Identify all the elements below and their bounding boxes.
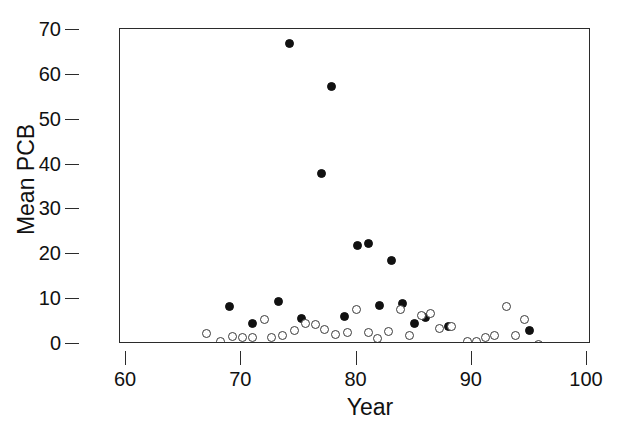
data-point-open [301,319,310,328]
x-axis-tick [240,351,241,365]
data-point-filled [387,256,396,265]
data-point-open [352,305,361,314]
y-axis-tick [65,119,79,120]
data-point-filled [364,239,373,248]
x-axis-tick-label: 60 [114,369,136,389]
data-point-open [238,333,247,342]
data-point-open [311,320,320,329]
data-point-open [435,324,444,333]
data-point-open [278,331,287,340]
data-point-open [320,325,329,334]
y-axis-tick-label: 30 [39,198,61,218]
x-axis-tick [586,351,587,365]
data-point-open [373,334,382,342]
x-axis-tick [125,351,126,365]
y-axis-title: Mean PCB [15,90,38,270]
data-point-open [216,337,225,342]
data-point-filled [327,82,336,91]
data-point-open [202,329,211,338]
scatter-plot-figure: 010203040506070 60708090100 Mean PCB Yea… [0,0,630,436]
y-axis-tick-label: 70 [39,19,61,39]
data-point-open [343,328,352,337]
data-point-open [396,305,405,314]
data-point-open [520,315,529,324]
x-axis-title: Year [0,396,630,419]
data-point-open [290,326,299,335]
data-point-filled [375,301,384,310]
data-point-open [405,331,414,340]
data-point-filled [248,319,257,328]
data-point-filled [274,297,283,306]
x-axis-tick-label: 70 [229,369,251,389]
y-axis-tick-label: 50 [39,109,61,129]
data-point-open [248,333,257,342]
x-axis: 60708090100 [0,343,630,436]
data-point-filled [225,302,234,311]
data-point-open [417,311,426,320]
data-point-filled [525,326,534,335]
data-point-open [502,302,511,311]
data-point-filled [317,169,326,178]
y-axis-tick-label: 40 [39,154,61,174]
plot-area-frame [119,28,590,343]
data-point-open [511,331,520,340]
data-point-open [384,327,393,336]
data-point-open [267,333,276,342]
data-point-filled [353,241,362,250]
y-axis-tick [65,253,79,254]
data-point-open [364,328,373,337]
y-axis-tick [65,164,79,165]
data-point-open [331,330,340,339]
y-axis-tick [65,74,79,75]
data-point-filled [340,312,349,321]
data-point-open [490,331,499,340]
x-axis-tick-label: 90 [460,369,482,389]
x-axis-tick [356,351,357,365]
data-point-open [260,315,269,324]
y-axis-tick [65,29,79,30]
data-point-open [447,322,456,331]
data-point-open [228,332,237,341]
data-point-open [426,309,435,318]
y-axis-tick-label: 60 [39,64,61,84]
y-axis-tick [65,208,79,209]
x-axis-tick-label: 80 [344,369,366,389]
data-points-layer [120,29,589,342]
y-axis-tick-label: 10 [39,288,61,308]
y-axis-tick [65,298,79,299]
data-point-open [534,340,543,342]
data-point-filled [410,319,419,328]
x-axis-tick-label: 100 [569,369,602,389]
data-point-open [481,333,490,342]
data-point-filled [285,39,294,48]
y-axis-tick-label: 20 [39,243,61,263]
data-point-open [463,337,472,342]
x-axis-tick [471,351,472,365]
data-point-open [472,337,481,342]
